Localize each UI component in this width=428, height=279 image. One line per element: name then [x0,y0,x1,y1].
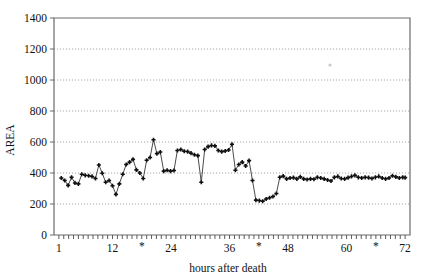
y-tick-label: 1000 [24,74,47,86]
x-tick-label: 1 [56,242,62,254]
area-vs-hours-after-death-chart: 0200400600800100012001400 112*2436*4860*… [0,0,428,279]
y-tick-label: 400 [30,167,48,179]
chart-figure: 0200400600800100012001400 112*2436*4860*… [0,0,428,279]
plot-frame [54,18,410,235]
x-tick-label: 24 [165,242,177,254]
data-point-marker [403,176,407,180]
x-tick-label: 12 [107,242,119,254]
y-tick-label: 1200 [24,43,47,55]
y-tick-label: 800 [30,105,48,117]
data-point-marker [233,168,237,172]
y-tick-label: 0 [41,229,47,241]
data-point-marker [117,182,121,186]
x-tick-label: 48 [282,242,294,254]
y-axis-tick-labels: 0200400600800100012001400 [24,12,47,241]
y-tick-label: 1400 [24,12,47,24]
x-tick-label: 36 [224,242,236,254]
x-tick-asterisk: * [139,240,145,252]
x-axis-title: hours after death [189,262,267,274]
x-tick-label: 60 [341,242,353,254]
x-tick-asterisk: * [373,240,379,252]
data-point-marker [250,178,254,182]
data-point-marker [230,142,234,146]
x-axis-tick-labels: 112*2436*4860*72 [56,240,411,254]
x-tick-asterisk: * [256,240,262,252]
data-point-marker [114,192,118,196]
y-tick-label: 600 [30,136,48,148]
data-point-marker [100,171,104,175]
data-series-area [59,138,407,204]
y-axis-title: AREA [4,124,16,156]
data-point-marker [199,180,203,184]
y-tick-label: 200 [30,198,48,210]
data-point-marker [97,163,101,167]
data-point-marker [247,159,251,163]
data-point-marker [141,176,145,180]
data-point-marker [151,138,155,142]
data-point-marker [70,175,74,179]
data-point-marker [121,172,125,176]
scan-artifact-speck [328,63,331,66]
data-point-marker [172,168,176,172]
x-tick-label: 72 [399,242,411,254]
